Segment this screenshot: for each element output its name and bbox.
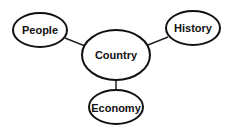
node-people: People [13, 13, 67, 47]
node-country: Country [82, 30, 150, 80]
node-economy: Economy [89, 90, 143, 124]
node-economy-label: Economy [91, 102, 141, 114]
node-people-label: People [22, 24, 58, 36]
edge-country-people [65, 38, 85, 46]
node-history-label: History [174, 22, 213, 34]
edge-country-history [148, 37, 168, 45]
node-history: History [166, 11, 220, 45]
node-country-label: Country [95, 49, 138, 61]
mind-map-diagram: People History Country Economy [0, 0, 231, 129]
